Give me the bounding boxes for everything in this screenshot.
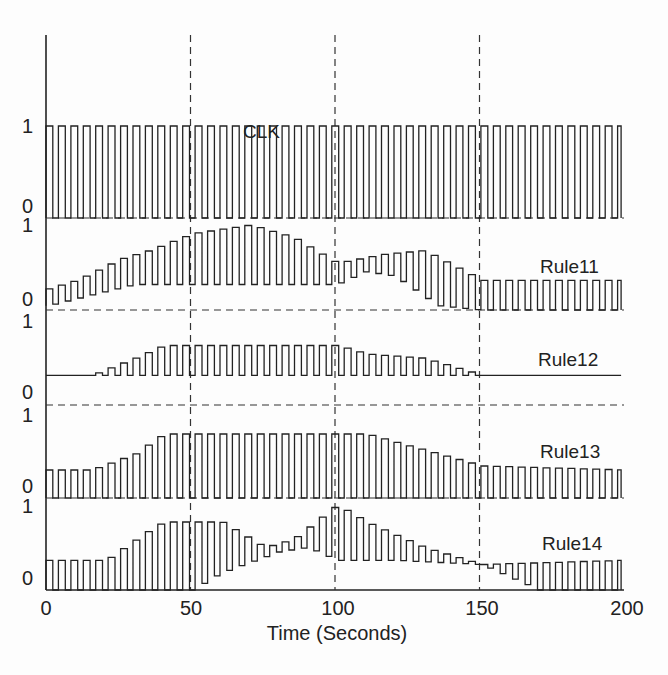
xtick-150: 150 bbox=[465, 597, 498, 620]
ytick-rule13-1: 1 bbox=[22, 404, 33, 427]
series-label-rule14: Rule14 bbox=[542, 533, 602, 555]
x-axis-title: Time (Seconds) bbox=[267, 622, 407, 645]
ytick-clk-1: 1 bbox=[22, 115, 33, 138]
series-label-clk: CLK bbox=[243, 121, 280, 143]
xtick-200: 200 bbox=[610, 597, 643, 620]
series-label-rule13: Rule13 bbox=[540, 441, 600, 463]
ytick-rule11-1: 1 bbox=[22, 214, 33, 237]
ytick-rule14-1: 1 bbox=[22, 495, 33, 518]
ytick-rule12-1: 1 bbox=[22, 310, 33, 333]
ytick-rule11-0: 0 bbox=[22, 288, 33, 311]
xtick-0: 0 bbox=[40, 597, 51, 620]
series-label-rule11: Rule11 bbox=[540, 256, 599, 278]
ytick-rule12-0: 0 bbox=[22, 381, 33, 404]
series-label-rule12: Rule12 bbox=[538, 349, 598, 371]
xtick-50: 50 bbox=[180, 597, 202, 620]
xtick-100: 100 bbox=[321, 597, 354, 620]
timing-chart bbox=[0, 0, 668, 675]
ytick-rule14-0: 0 bbox=[22, 567, 33, 590]
